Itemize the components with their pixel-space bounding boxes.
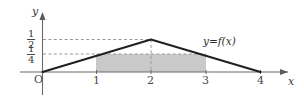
y-axis-label: y [32, 6, 38, 17]
function-label: y=f(x) [203, 36, 236, 47]
plot-canvas [0, 0, 304, 112]
y-tick-one-quarter-numerator: 1 [27, 44, 35, 54]
origin-label: O [34, 74, 43, 85]
y-tick-one-half-numerator: 1 [27, 29, 35, 39]
x-tick-label-4: 4 [257, 75, 264, 86]
y-tick-one-quarter-denominator: 4 [27, 54, 35, 65]
y-axis-arrowhead [40, 12, 46, 20]
x-tick-label-2: 2 [147, 75, 154, 86]
x-tick-label-3: 3 [202, 75, 209, 86]
x-tick-label-1: 1 [93, 75, 100, 86]
x-axis-label: x [288, 76, 294, 87]
function-graph-figure: y x O y=f(x) 1 2 3 4 1 2 1 4 [0, 0, 304, 112]
x-axis-arrowhead [280, 69, 288, 75]
y-tick-label-one-quarter: 1 4 [27, 44, 35, 65]
